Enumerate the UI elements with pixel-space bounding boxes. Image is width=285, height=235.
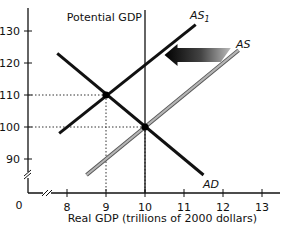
curves [57, 25, 238, 175]
origin-label: 0 [16, 199, 23, 212]
curve-as-fill [87, 50, 239, 175]
curve-as1 [59, 25, 196, 134]
as-label: AS [235, 38, 251, 51]
curve-labels: AS1ASAD [189, 9, 251, 191]
curve-ad [57, 53, 203, 175]
x-axis-label: Real GDP (trillions of 2000 dollars) [68, 212, 257, 225]
equilibrium-point [102, 91, 109, 98]
potential-gdp-label: Potential GDP [67, 11, 143, 24]
equilibrium-point [141, 123, 148, 130]
dotted-guide-lines [28, 95, 145, 193]
x-tick-label: 13 [255, 201, 269, 214]
y-tick-label: 90 [6, 153, 20, 166]
y-tick-label: 100 [0, 121, 20, 134]
y-tick-label: 120 [0, 57, 20, 70]
y-tick-label: 110 [0, 89, 20, 102]
aggregate-supply-demand-chart: 891011121390100110120130 Potential GDP A… [0, 0, 285, 235]
as1-label: AS1 [189, 9, 210, 24]
y-tick-label: 130 [0, 25, 20, 38]
axes [24, 8, 280, 196]
ad-label: AD [202, 178, 219, 191]
